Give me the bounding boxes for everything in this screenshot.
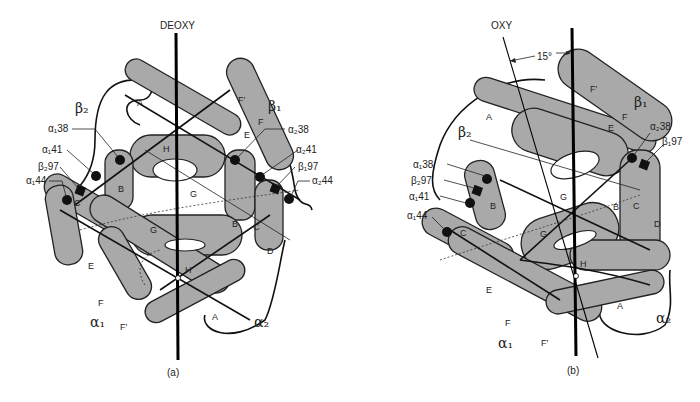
residue-dot-a1-38 xyxy=(115,155,125,165)
subunit-beta1: β₁ xyxy=(634,94,648,110)
helix-label: F′ xyxy=(238,95,245,105)
leader-line xyxy=(440,196,466,203)
helix-label: C xyxy=(633,201,640,211)
helix-label: A xyxy=(212,312,218,322)
helix-label: F xyxy=(98,298,104,308)
residue-label: α₁41 xyxy=(409,191,430,202)
deoxy-label: DEOXY xyxy=(160,20,195,31)
subunit-alpha1: α₁ xyxy=(90,314,105,330)
residue-label: β₂97 xyxy=(38,161,59,172)
caption-b: (b) xyxy=(567,365,579,376)
helix-label: B xyxy=(613,202,619,212)
residue-label: α₁41 xyxy=(42,144,63,155)
helix-label: C xyxy=(74,198,81,208)
helix-label: H xyxy=(185,265,192,275)
helix-label: D xyxy=(654,219,661,229)
residue-label: α₂44 xyxy=(312,175,333,186)
deoxy-axis xyxy=(176,33,178,360)
residue-label: α₁38 xyxy=(413,159,434,170)
leader-line xyxy=(67,150,94,174)
helix-label: D xyxy=(267,246,274,256)
helix-A-beta2 xyxy=(121,55,245,139)
residue-label: β₂97 xyxy=(411,175,432,186)
helix-B-beta1 xyxy=(225,150,255,220)
helix-label: C xyxy=(460,228,467,238)
residue-dot-a1-44 xyxy=(62,195,72,205)
hole-lower xyxy=(165,239,205,251)
panel-b-oxy: 15° OXY β₂ β₁ α₁ α₂ α₁38 β₂97 α₁41 α₁44 … xyxy=(407,20,683,376)
helix-label: F′ xyxy=(120,322,127,332)
hemoglobin-quaternary-diagram: DEOXY β₂ β₁ α₁ α₂ α₁38 α₁41 β₂97 α₁44 α₂… xyxy=(0,0,700,402)
panel-a-deoxy: DEOXY β₂ β₁ α₁ α₂ α₁38 α₁41 β₂97 α₁44 α₂… xyxy=(26,20,333,378)
helix-label: G xyxy=(190,189,197,199)
caption-a: (a) xyxy=(167,367,179,378)
helix-B-beta2 xyxy=(461,157,508,232)
helix-A-alpha2 xyxy=(544,268,666,316)
helix-label: G xyxy=(560,192,567,202)
helix-label: F xyxy=(258,117,264,127)
hole-upper xyxy=(153,159,197,181)
dyad-center xyxy=(574,274,579,279)
residue-dot-a2-38 xyxy=(627,153,637,163)
subunit-beta1: β₁ xyxy=(268,98,282,114)
subunit-alpha2: α₂ xyxy=(254,314,269,330)
residue-label: α₁44 xyxy=(26,175,47,186)
residue-label: α₂38 xyxy=(288,124,309,135)
helix-label: F xyxy=(505,318,511,328)
helix-label: A xyxy=(617,301,623,311)
helix-label: C xyxy=(253,222,260,232)
helix-label: F xyxy=(622,112,628,122)
residue-label: β₁97 xyxy=(662,136,683,147)
angle-label: 15° xyxy=(537,51,552,62)
residue-label: α₁38 xyxy=(48,123,69,134)
helix-label: F′ xyxy=(541,338,548,348)
subunit-alpha1: α₁ xyxy=(498,335,513,351)
helix-label: E xyxy=(608,123,614,133)
subunit-beta2: β₂ xyxy=(458,124,472,140)
helix-label: E xyxy=(88,261,94,271)
residue-label: β₁97 xyxy=(298,161,319,172)
helix-label: E xyxy=(244,130,250,140)
subunit-alpha2: α₂ xyxy=(656,310,671,326)
helix-label: B xyxy=(490,201,496,211)
helix-label: H xyxy=(580,259,587,269)
residue-dot-a2-44 xyxy=(284,194,294,204)
residue-label: α₂38 xyxy=(650,121,671,132)
oxy-label: OXY xyxy=(491,20,512,31)
helix-label: G xyxy=(150,225,157,235)
subunit-beta2: β₂ xyxy=(75,100,89,116)
helix-label: H xyxy=(163,144,170,154)
helix-label: A xyxy=(486,112,492,122)
helix-label: E xyxy=(486,285,492,295)
helix-label: A xyxy=(137,98,143,108)
helix-label: B xyxy=(118,184,124,194)
residue-label: α₁44 xyxy=(407,210,428,221)
residue-label: α₂41 xyxy=(296,144,317,155)
helix-label: G xyxy=(540,229,547,239)
dyad-center xyxy=(176,276,181,281)
residue-dot-a1-41 xyxy=(465,198,475,208)
helix-label: F′ xyxy=(590,84,597,94)
helix-label: B xyxy=(232,219,238,229)
